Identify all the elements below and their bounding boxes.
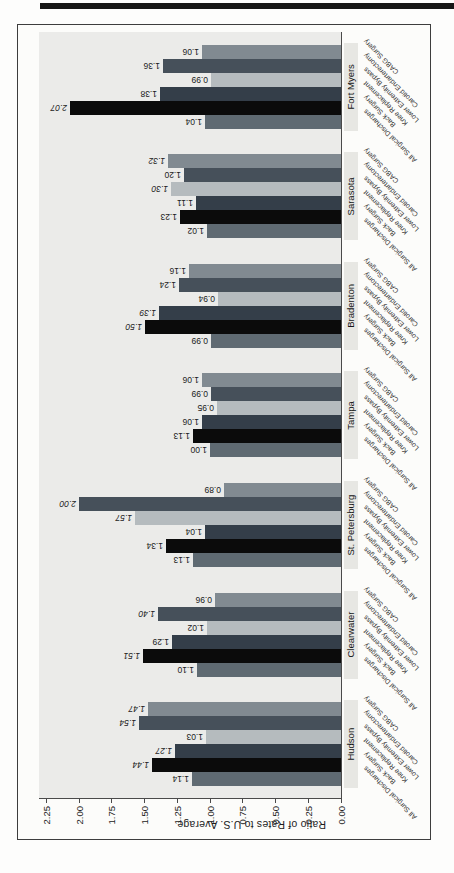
bar	[211, 388, 341, 402]
city-label: Fort Myers	[344, 30, 358, 144]
city-label: St. Petersburg	[344, 468, 358, 582]
figure-frame: Ratio of Rates to U.S. Average 0.000.250…	[17, 24, 431, 840]
bar	[171, 182, 341, 196]
bar-value-label: 1.16	[169, 266, 186, 276]
bar	[179, 278, 341, 292]
bar	[211, 334, 341, 348]
axis-tick	[111, 799, 112, 803]
axis-tick-label: 0.25	[303, 806, 314, 836]
bar-value-label: 1.27	[155, 746, 172, 756]
city-label: Hudson	[344, 687, 358, 801]
bar-value-label: 1.04	[185, 527, 202, 537]
bar	[184, 168, 341, 182]
axis-tick	[144, 799, 145, 803]
bar-value-label: 2.07	[50, 103, 67, 113]
bar-value-label: 0.99	[192, 336, 209, 346]
bar	[172, 635, 341, 649]
bar-value-label: 1.03	[187, 732, 204, 742]
bar-value-label: 1.06	[183, 47, 200, 57]
axis-tick	[275, 799, 276, 803]
bar	[207, 621, 341, 635]
bar	[202, 45, 341, 59]
axis-tick-label: 0.50	[270, 806, 281, 836]
bar-value-label: 1.10	[177, 665, 194, 675]
bar	[135, 511, 341, 525]
category-axis-line	[341, 32, 342, 799]
bar	[207, 224, 341, 238]
bar-value-label: 1.20	[164, 170, 181, 180]
bar	[152, 758, 341, 772]
bar	[158, 607, 341, 621]
bar-value-label: 1.47	[129, 704, 146, 714]
bar	[205, 115, 341, 129]
bar-value-label: 1.06	[183, 418, 200, 428]
bar	[139, 716, 341, 730]
city-label: Clearwater	[344, 578, 358, 692]
bar-value-label: 1.13	[173, 555, 190, 565]
axis-tick	[79, 799, 80, 803]
city-label: Tampa	[344, 359, 358, 473]
city-label: Bradenton	[344, 249, 358, 363]
bar-value-label: 1.38	[141, 89, 158, 99]
bar-value-label: 1.30	[151, 184, 168, 194]
bar	[160, 87, 341, 101]
bar-value-label: 1.11	[177, 198, 193, 208]
bar-value-label: 1.04	[185, 117, 202, 127]
axis-tick-label: 1.50	[139, 806, 150, 836]
bar	[193, 430, 341, 444]
axis-tick-label: 1.75	[106, 806, 117, 836]
bar	[180, 210, 341, 224]
bar-value-label: 1.29	[152, 637, 169, 647]
bar-value-label: 1.14	[172, 774, 189, 784]
bar-value-label: 1.00	[190, 446, 207, 456]
bar	[166, 539, 342, 553]
axis-tick-label: 2.25	[41, 806, 52, 836]
bar-value-label: 1.36	[143, 61, 160, 71]
bar	[79, 497, 341, 511]
bar	[206, 730, 341, 744]
bar-value-label: 2.00	[59, 499, 76, 509]
bar	[148, 702, 341, 716]
axis-tick	[308, 799, 309, 803]
bar	[189, 264, 341, 278]
axis-tick-label: 2.00	[74, 806, 85, 836]
bar-value-label: 1.13	[173, 432, 190, 442]
bar	[202, 416, 341, 430]
bar	[210, 444, 341, 458]
bar-value-label: 0.99	[192, 390, 209, 400]
bar-value-label: 1.39	[139, 308, 156, 318]
bar-value-label: 1.24	[159, 280, 176, 290]
bar	[192, 772, 341, 786]
bar	[224, 483, 341, 497]
bar	[159, 306, 341, 320]
bar	[211, 73, 341, 87]
bar	[163, 59, 341, 73]
bar	[143, 649, 341, 663]
axis-tick	[242, 799, 243, 803]
bar-value-label: 0.94	[198, 294, 215, 304]
bar-value-label: 1.50	[125, 322, 142, 332]
axis-tick-label: 1.00	[205, 806, 216, 836]
bar-value-label: 1.44	[133, 760, 150, 770]
axis-tick-label: 0.75	[237, 806, 248, 836]
axis-tick-label: 1.25	[172, 806, 183, 836]
bar	[217, 402, 341, 416]
bar-value-label: 1.02	[188, 623, 205, 633]
bar-value-label: 1.51	[124, 651, 141, 661]
bar-value-label: 1.34	[146, 541, 163, 551]
city-label: Sarasota	[344, 139, 358, 253]
bar-value-label: 1.23	[160, 212, 177, 222]
axis-tick	[341, 799, 342, 803]
bar	[218, 292, 341, 306]
bar-value-label: 1.40	[138, 609, 155, 619]
bar	[70, 101, 341, 115]
bar	[202, 374, 341, 388]
bar	[196, 196, 341, 210]
bar-value-label: 1.32	[149, 156, 166, 166]
page-top-rule	[40, 3, 454, 9]
axis-tick	[46, 799, 47, 803]
bar	[193, 553, 341, 567]
bar	[145, 320, 342, 334]
bar	[215, 593, 341, 607]
bar-value-label: 1.57	[116, 513, 133, 523]
